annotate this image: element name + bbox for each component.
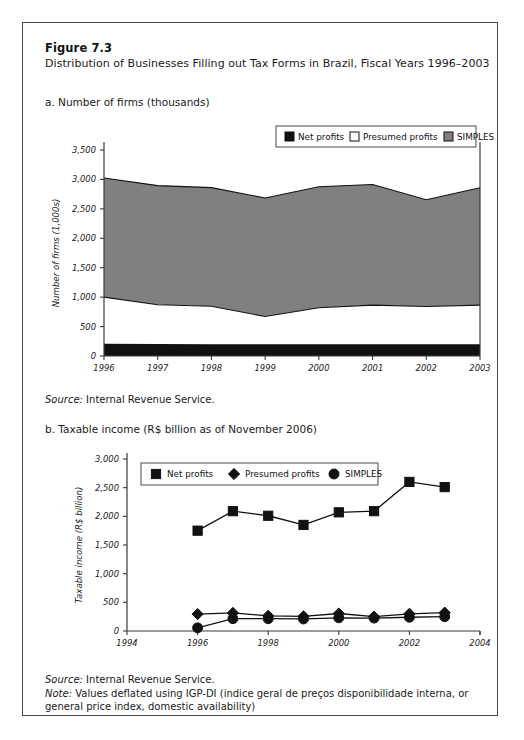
panel-a-xtick-label: 1999 [254,363,275,373]
panel-b-y-axis-title: Taxable income (R$ billion) [74,487,84,604]
panel-a-legend-label-simples: SIMPLES [457,132,495,142]
panel-b-label: b. Taxable income (R$ billion as of Nove… [45,423,317,435]
panel-b-footer: Source: Internal Revenue Service. Note: … [45,673,485,714]
panel-b-marker-net-profits [370,507,379,516]
panel-b-xtick-label: 2000 [328,638,349,648]
panel-a-xtick-label: 1998 [201,363,222,373]
panel-b-marker-presumed-profits [192,608,203,619]
panel-b-marker-net-profits [264,511,273,520]
panel-a-source-text: Internal Revenue Service. [83,394,215,405]
panel-a-legend-label-presumed-profits: Presumed profits [363,132,438,142]
figure-title: Distribution of Businesses Filling out T… [45,57,490,70]
panel-b-marker-simples [334,613,344,623]
panel-b-xtick-label: 1998 [258,638,279,648]
panel-a-ytick-label: 1,500 [72,263,96,273]
panel-a-label: a. Number of firms (thousands) [45,96,210,108]
panel-b-ytick-label: 2,500 [95,483,119,493]
panel-b-marker-simples [228,614,238,624]
panel-b-xtick-label: 1996 [187,638,208,648]
panel-b-marker-net-profits [405,477,414,486]
panel-a-svg: 05001,0001,5002,0002,5003,0003,500Number… [23,115,499,377]
panel-b-legend-marker-simples [329,469,339,479]
panel-a-legend-swatch-simples [444,132,453,141]
panel-a-ytick-label: 2,500 [72,204,96,214]
panel-b-ytick-label: 1,500 [95,540,119,550]
panel-b-ytick-label: 2,000 [95,511,119,521]
panel-b-legend-label-net-profits: Net profits [167,469,214,479]
panel-b-marker-simples [299,614,309,624]
panel-a-ytick-label: 2,000 [72,233,96,243]
panel-a-ytick-label: 1,000 [72,292,96,302]
panel-b-marker-net-profits [334,508,343,517]
chart-a-area: 05001,0001,5002,0002,5003,0003,500Number… [23,115,499,377]
panel-a-ytick-label: 500 [80,322,96,332]
panel-b-legend-label-presumed-profits: Presumed profits [245,469,320,479]
panel-a-xtick-label: 2002 [416,363,437,373]
panel-a-legend-label-net-profits: Net profits [298,132,345,142]
panel-b-ytick-label: 0 [114,626,119,636]
panel-b-marker-net-profits [228,507,237,516]
panel-b-source: Source: Internal Revenue Service. [45,673,485,687]
panel-a-y-axis-title: Number of firms (1,000s) [51,199,61,308]
panel-b-marker-simples [263,614,273,624]
panel-b-source-text: Internal Revenue Service. [83,674,215,685]
panel-b-svg: 05001,0001,5002,0002,5003,000Taxable inc… [23,441,499,663]
panel-b-marker-net-profits [440,482,449,491]
panel-b-marker-simples [193,623,203,633]
panel-b-source-prefix: Source: [45,674,83,685]
chart-b-line: 05001,0001,5002,0002,5003,000Taxable inc… [23,441,499,663]
panel-a-xtick-label: 2000 [308,363,329,373]
panel-a-legend-swatch-presumed-profits [350,132,359,141]
panel-a-xtick-label: 2001 [362,363,383,373]
panel-b-note: Note: Values deflated using IGP-DI (indi… [45,687,485,714]
panel-a-ytick-label: 0 [91,351,96,361]
panel-b-ytick-label: 500 [103,597,119,607]
panel-a-source: Source: Internal Revenue Service. [45,394,215,405]
panel-b-ytick-label: 3,000 [95,454,119,464]
panel-b-marker-simples [369,613,379,623]
panel-b-marker-simples [404,612,414,622]
panel-b-legend-label-simples: SIMPLES [345,469,383,479]
panel-b-marker-net-profits [193,526,202,535]
panel-a-xtick-label: 1996 [93,363,114,373]
panel-a-legend-swatch-net-profits [285,132,294,141]
panel-b-xtick-label: 2002 [399,638,420,648]
panel-b-marker-net-profits [299,520,308,529]
panel-b-marker-simples [440,612,450,622]
panel-b-xtick-label: 1994 [116,638,137,648]
panel-b-legend-marker-net-profits [151,469,160,478]
panel-a-ytick-label: 3,500 [72,145,96,155]
panel-b-note-prefix: Note: [45,688,72,699]
panel-b-note-text: Values deflated using IGP-DI (indice ger… [45,688,468,713]
panel-a-source-prefix: Source: [45,394,83,405]
panel-a-band-net-profits [104,344,480,356]
figure-number: Figure 7.3 [45,41,112,55]
panel-b-xtick-label: 2004 [469,638,490,648]
panel-a-xtick-label: 2003 [469,363,490,373]
figure-frame: Figure 7.3 Distribution of Businesses Fi… [22,22,498,716]
panel-a-ytick-label: 3,000 [72,174,96,184]
panel-b-ytick-label: 1,000 [95,569,119,579]
panel-a-xtick-label: 1997 [147,363,169,373]
panel-b-series-net-profits [193,477,449,535]
